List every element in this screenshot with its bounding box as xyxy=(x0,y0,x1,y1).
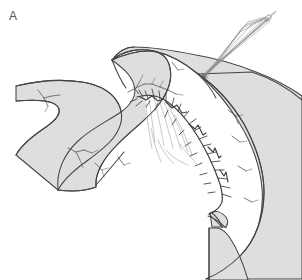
panel-label: A xyxy=(9,10,18,22)
bowel-anastomosis-illustration xyxy=(0,0,302,280)
cut-edge xyxy=(208,212,248,280)
needle xyxy=(264,11,276,22)
figure-panel: A xyxy=(0,0,302,280)
